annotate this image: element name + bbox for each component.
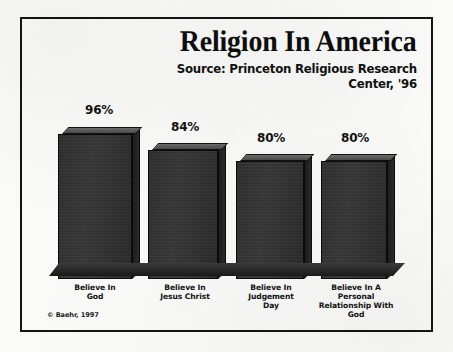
category-label-4-line-4: God bbox=[311, 310, 401, 319]
bar-value-label-4: 80% bbox=[321, 131, 389, 145]
bar-top-face-2 bbox=[152, 143, 228, 150]
category-label-4-line-3: Relationship With bbox=[311, 301, 401, 310]
bar-top-face-1 bbox=[62, 127, 142, 134]
bar-front-face-1 bbox=[58, 134, 132, 279]
category-label-3-line-2: Judgement bbox=[232, 292, 310, 301]
bar-side-face-3 bbox=[304, 154, 312, 279]
chart-plot-area: 96% Believe In God 84% Believe In Jesus … bbox=[20, 17, 433, 332]
category-label-2-line-1: Believe In bbox=[144, 283, 226, 292]
bar-top-face-3 bbox=[240, 154, 314, 161]
bar-value-label-2: 84% bbox=[148, 120, 222, 134]
bar-top-face-4 bbox=[325, 154, 397, 161]
bar-side-face-1 bbox=[132, 127, 140, 279]
category-label-4-line-1: Believe In A bbox=[311, 283, 401, 292]
bar-front-face-2 bbox=[148, 150, 218, 279]
category-label-2: Believe In Jesus Christ bbox=[144, 283, 226, 301]
bar-front-face-3 bbox=[236, 161, 304, 279]
category-label-2-line-2: Jesus Christ bbox=[144, 292, 226, 301]
bar-3d-block-3 bbox=[236, 154, 304, 279]
bar-group-believe-in-judgement-day: 80% Believe In Judgement Day bbox=[236, 117, 318, 332]
bar-side-face-4 bbox=[387, 154, 395, 279]
bar-group-believe-in-personal-relationship-with-god: 80% Believe In A Personal Relationship W… bbox=[321, 117, 411, 332]
bar-group-believe-in-jesus-christ: 84% Believe In Jesus Christ bbox=[148, 117, 230, 332]
category-label-4-line-2: Personal bbox=[311, 292, 401, 301]
bar-side-face-2 bbox=[218, 143, 226, 279]
bar-front-face-4 bbox=[321, 161, 387, 279]
category-label-3-line-1: Believe In bbox=[232, 283, 310, 292]
poster-chart-image: Religion In America Source: Princeton Re… bbox=[0, 0, 453, 352]
chart-baseline-platform bbox=[49, 263, 405, 276]
category-label-1-line-2: God bbox=[56, 292, 134, 301]
category-label-3-line-3: Day bbox=[232, 301, 310, 310]
bar-value-label-1: 96% bbox=[58, 103, 140, 117]
bar-value-label-3: 80% bbox=[236, 131, 306, 145]
category-label-3: Believe In Judgement Day bbox=[232, 283, 310, 310]
category-label-1: Believe In God bbox=[56, 283, 134, 301]
bar-3d-block-4 bbox=[321, 154, 387, 279]
bar-group-believe-in-god: 96% Believe In God bbox=[58, 117, 140, 332]
category-label-1-line-1: Believe In bbox=[56, 283, 134, 292]
copyright-credit: © Baehr, 1997 bbox=[47, 311, 99, 319]
category-label-4: Believe In A Personal Relationship With … bbox=[311, 283, 401, 319]
bar-3d-block-2 bbox=[148, 143, 218, 279]
bar-3d-block-1 bbox=[58, 127, 132, 279]
